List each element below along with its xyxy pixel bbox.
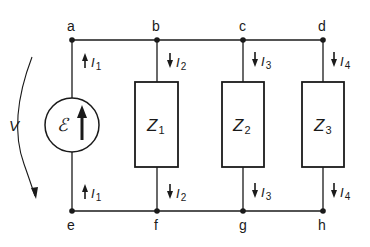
node-label-e: e [67,217,75,233]
svg-text:I3: I3 [261,185,272,202]
arrow-down-icon [331,52,337,67]
current-i3-top: I3 [252,52,272,71]
svg-text:I2: I2 [176,186,187,203]
voltage-arrow-icon [18,57,35,196]
current-i1-top: I1 [82,53,102,72]
branch-z2: Z2 [222,40,264,211]
current-i3-bottom: I3 [252,183,272,202]
arrow-up-icon [82,184,88,199]
node-label-g: g [239,217,247,233]
arrow-up-icon [82,53,88,68]
svg-text:I4: I4 [340,185,351,202]
node-g [240,208,246,214]
svg-text:I3: I3 [261,54,272,71]
branch-z1: Z1 [135,40,178,211]
arrow-down-icon [252,183,258,198]
arrow-down-icon [252,52,258,67]
node-label-d: d [318,18,326,34]
node-h [320,208,326,214]
circuit-diagram: ℰ Z1 Z2 Z3 a b c d e f g h [0,0,370,247]
current-i4-top: I4 [331,52,351,71]
voltage-arc: V [9,57,38,199]
branch-z3: Z3 [302,40,344,211]
svg-text:I4: I4 [340,54,351,71]
current-i2-top: I2 [167,53,187,72]
node-label-c: c [239,18,246,34]
arrow-down-icon [167,53,173,68]
voltage-label: V [9,117,21,134]
emf-source [45,98,99,152]
arrow-down-icon [331,183,337,198]
svg-text:I1: I1 [91,186,102,203]
svg-text:I1: I1 [91,55,102,72]
arrow-down-icon [167,184,173,199]
node-a [69,37,75,43]
current-i4-bottom: I4 [331,183,351,202]
node-e [69,208,75,214]
current-i1-bottom: I1 [82,184,102,203]
node-label-h: h [318,217,326,233]
current-i2-bottom: I2 [167,184,187,203]
node-d [320,37,326,43]
node-f [154,208,160,214]
node-label-f: f [154,217,158,233]
node-b [154,37,160,43]
node-c [240,37,246,43]
svg-text:I2: I2 [176,55,187,72]
node-label-b: b [152,18,160,34]
node-label-a: a [67,18,75,34]
